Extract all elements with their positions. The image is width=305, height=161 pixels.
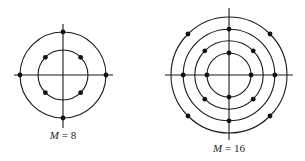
constellation-m16 (165, 8, 293, 140)
signal-point (78, 90, 83, 95)
signal-point (251, 97, 256, 102)
signal-point (227, 95, 232, 100)
signal-point (18, 73, 23, 78)
signal-point (181, 73, 186, 78)
signal-point (202, 97, 207, 102)
label-m16-eq: = (222, 142, 234, 154)
signal-point (43, 90, 48, 95)
label-m8: M = 8 (49, 129, 77, 141)
signal-point (61, 30, 66, 35)
label-m16: M = 16 (212, 142, 245, 154)
signal-point (186, 114, 191, 119)
constellation-m8 (14, 24, 113, 128)
label-m16-value: 16 (234, 142, 246, 154)
signal-point (61, 116, 66, 121)
signal-point (43, 55, 48, 60)
signal-point (104, 73, 109, 78)
label-m8-value: 8 (71, 129, 77, 141)
signal-point (268, 32, 273, 37)
signal-point (249, 73, 254, 78)
constellation-figure: M = 8 M = 16 (0, 0, 305, 161)
signal-point (227, 51, 232, 56)
signal-point (202, 48, 207, 53)
label-m8-eq: = (59, 129, 71, 141)
signal-point (272, 73, 277, 78)
signal-point (78, 55, 83, 60)
signal-point (227, 118, 232, 123)
signal-point (268, 114, 273, 119)
signal-point (186, 32, 191, 37)
signal-point (251, 48, 256, 53)
signal-point (227, 27, 232, 32)
signal-point (205, 73, 210, 78)
